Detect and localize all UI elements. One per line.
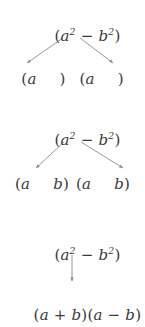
- minus-operator: −: [76, 131, 99, 149]
- stage-2-binomial-right: (a b): [76, 175, 130, 193]
- minus-operator: −: [76, 246, 99, 264]
- term-b: b: [98, 131, 108, 149]
- stage-2-parent-expression: (a2 − b2): [0, 118, 145, 163]
- stage-1-parent-expression: (a2 − b2): [0, 14, 145, 59]
- stage-1-children-row: (a ) (a ): [0, 70, 145, 88]
- term-first: a: [82, 175, 91, 193]
- stage-1-binomial-right: (a ): [80, 70, 124, 88]
- minus-operator: −: [76, 27, 99, 45]
- term-first: a: [21, 175, 30, 193]
- plus-operator: +: [49, 306, 72, 324]
- stage-2-children-row: (a b) (a b): [0, 175, 145, 193]
- term-first: a: [86, 70, 95, 88]
- paren-close: ): [114, 246, 120, 264]
- term-a: a: [60, 246, 69, 264]
- blank-gap: [37, 70, 60, 88]
- term-second: b: [114, 175, 124, 193]
- stage-3-parent-expression: (a2 − b2): [0, 233, 145, 278]
- term-a: a: [60, 131, 69, 149]
- paren-close: ): [63, 175, 69, 193]
- paren-close: ): [59, 70, 65, 88]
- paren-close: ): [124, 175, 130, 193]
- stage-1-binomial-left: (a ): [21, 70, 65, 88]
- term-b: b: [72, 306, 82, 324]
- minus-operator: −: [103, 306, 126, 324]
- term-a: a: [60, 27, 69, 45]
- term-a: a: [93, 306, 102, 324]
- paren-close: ): [114, 131, 120, 149]
- paren-close: ): [135, 306, 141, 324]
- stage-2-binomial-left: (a b): [15, 175, 69, 193]
- term-b: b: [98, 246, 108, 264]
- blank-gap: [91, 175, 114, 193]
- term-b: b: [125, 306, 135, 324]
- term-first: a: [27, 70, 36, 88]
- paren-close: ): [114, 27, 120, 45]
- paren-close: ): [118, 70, 124, 88]
- blank-gap: [95, 70, 118, 88]
- term-a: a: [40, 306, 49, 324]
- term-b: b: [98, 27, 108, 45]
- stage-3-result-expression: (a + b)(a − b): [0, 293, 145, 327]
- blank-gap: [30, 175, 53, 193]
- term-second: b: [53, 175, 63, 193]
